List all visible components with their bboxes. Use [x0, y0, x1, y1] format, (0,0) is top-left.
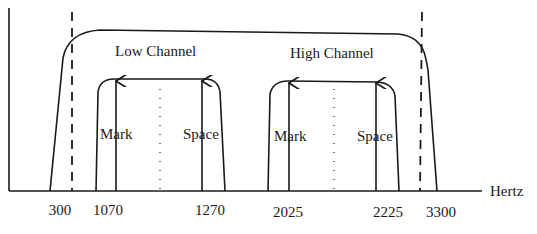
tick-2225: 2225 — [373, 205, 403, 220]
tick-300: 300 — [49, 203, 72, 218]
tick-1270: 1270 — [195, 203, 225, 218]
passband-envelope — [50, 30, 437, 191]
spectrum-diagram — [0, 0, 537, 234]
high-mark-label: Mark — [274, 129, 307, 144]
x-axis-label: Hertz — [490, 184, 523, 199]
low-channel-label: Low Channel — [115, 44, 196, 59]
high-space-label: Space — [357, 129, 393, 144]
tick-1070: 1070 — [93, 203, 123, 218]
high-channel-label: High Channel — [290, 46, 374, 61]
tick-3300: 3300 — [426, 205, 456, 220]
tick-2025: 2025 — [273, 205, 303, 220]
upper-limit-dashed-line — [420, 12, 422, 191]
low-mark-label: Mark — [100, 127, 133, 142]
low-space-label: Space — [183, 127, 219, 142]
